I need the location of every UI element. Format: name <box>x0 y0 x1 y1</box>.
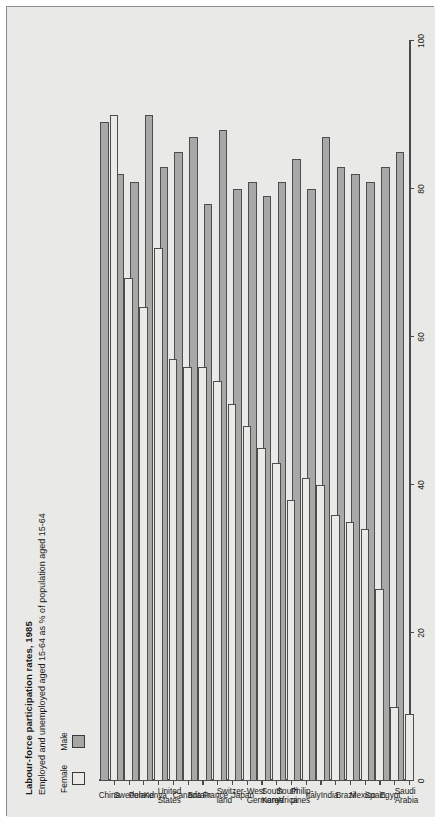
axis-tick-label: 100 <box>416 34 426 48</box>
bar-female <box>124 278 133 781</box>
category-tick <box>188 781 189 786</box>
bar-group <box>394 41 409 781</box>
category-tick <box>129 781 130 786</box>
bar-female <box>139 307 148 781</box>
category-tick <box>143 781 144 786</box>
value-axis-line <box>409 41 411 781</box>
bar-female <box>390 707 399 781</box>
category-tick <box>173 781 174 786</box>
bar-female <box>346 522 355 781</box>
category-tick <box>247 781 248 786</box>
chart-panel: Labour-force participation rates, 1985 E… <box>6 6 434 816</box>
axis-tick-label: 0 <box>416 779 426 784</box>
axis-tick <box>409 188 414 189</box>
bar-female <box>243 426 252 781</box>
bar-female <box>331 515 340 781</box>
axis-tick <box>409 632 414 633</box>
bar-female <box>154 248 163 781</box>
category-label: India <box>320 791 335 800</box>
category-tick <box>320 781 321 786</box>
axis-tick-label: 80 <box>416 184 426 193</box>
bar-female <box>169 359 178 781</box>
bar-female <box>257 448 266 781</box>
chart-page: Labour-force participation rates, 1985 E… <box>0 0 440 822</box>
category-tick <box>306 781 307 786</box>
bar-chart: Labour-force participation rates, 1985 E… <box>7 7 435 817</box>
axis-tick-label: 40 <box>416 480 426 489</box>
legend: Female Male <box>59 732 85 793</box>
category-tick <box>158 781 159 786</box>
legend-item-male: Male <box>59 732 85 750</box>
category-tick <box>394 781 395 786</box>
legend-item-female: Female <box>59 765 85 793</box>
category-tick <box>291 781 292 786</box>
legend-swatch-female-icon <box>72 772 85 785</box>
category-tick <box>365 781 366 786</box>
bar-male <box>100 122 109 781</box>
bar-female <box>228 404 237 781</box>
category-tick <box>217 781 218 786</box>
axis-tick <box>409 40 414 41</box>
legend-label-female: Female <box>59 765 69 793</box>
rotated-chart-wrapper: Labour-force participation rates, 1985 E… <box>7 7 435 817</box>
legend-swatch-male-icon <box>72 735 85 748</box>
bar-female <box>361 529 370 781</box>
page-title: Labour-force participation rates, 1985 <box>23 375 35 795</box>
axis-tick <box>409 484 414 485</box>
bar-male <box>396 152 405 781</box>
bar-female <box>272 463 281 781</box>
axis-tick <box>409 336 414 337</box>
category-tick <box>335 781 336 786</box>
category-tick <box>232 781 233 786</box>
bar-female <box>405 714 414 781</box>
legend-label-male: Male <box>59 732 69 750</box>
bar-female <box>287 500 296 781</box>
bar-female <box>213 381 222 781</box>
chart-subtitle: Employed and unemployed aged 15-64 as % … <box>36 375 48 795</box>
category-tick <box>350 781 351 786</box>
bar-female <box>110 115 119 781</box>
category-label: China <box>99 791 114 800</box>
category-tick <box>261 781 262 786</box>
category-tick <box>202 781 203 786</box>
axis-tick-label: 60 <box>416 332 426 341</box>
bar-group <box>99 41 114 781</box>
axis-tick-label: 20 <box>416 628 426 637</box>
plot-area: 020406080100 Saudi ArabiaEgyptSpainMexic… <box>99 41 409 781</box>
bar-female <box>183 367 192 781</box>
bar-female <box>198 367 207 781</box>
category-tick <box>379 781 380 786</box>
category-tick <box>409 781 410 786</box>
title-block: Labour-force participation rates, 1985 E… <box>23 375 48 795</box>
category-tick <box>114 781 115 786</box>
category-tick <box>276 781 277 786</box>
bar-female <box>302 478 311 781</box>
bar-female <box>375 589 384 781</box>
bar-female <box>316 485 325 781</box>
